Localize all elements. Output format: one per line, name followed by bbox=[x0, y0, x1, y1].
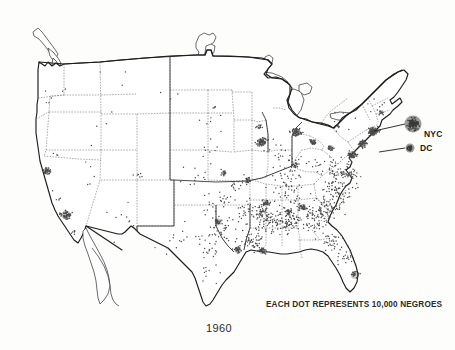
callout-label-dc: DC bbox=[420, 143, 433, 153]
legend-caption: EACH DOT REPRESENTS 10,000 NEGROES bbox=[266, 300, 442, 309]
callout-leader-line bbox=[379, 148, 405, 152]
us-population-map: NYCDC bbox=[0, 0, 455, 350]
callout-marker-nyc bbox=[405, 116, 422, 133]
callout-marker-dc bbox=[406, 144, 415, 153]
us-national-outline bbox=[36, 50, 408, 306]
dot-density-map-figure: NYCDC EACH DOT REPRESENTS 10,000 NEGROES… bbox=[0, 0, 455, 350]
year-label: 1960 bbox=[206, 322, 232, 334]
callout-label-nyc: NYC bbox=[424, 129, 443, 139]
mexico-outline bbox=[83, 226, 122, 306]
dot-cluster bbox=[351, 271, 361, 279]
vancouver-island bbox=[33, 28, 61, 67]
callout-layer: NYCDC bbox=[374, 116, 443, 154]
